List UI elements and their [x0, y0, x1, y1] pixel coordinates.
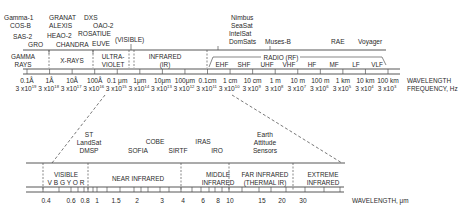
radio-sub-band: EHF: [216, 61, 229, 68]
wavelength-tick: 15: [258, 197, 266, 204]
wavelength-tick: 0.4: [41, 197, 50, 204]
mission-label: SIRTF: [169, 147, 188, 154]
wavelength-tick: 30: [299, 197, 307, 204]
mission-label: Sensors: [253, 147, 278, 154]
wavelength-tick: 100 km: [377, 77, 399, 84]
band-label-line2: INFRARED: [202, 179, 235, 186]
mission-label: DMSP: [79, 147, 99, 154]
radio-sub-band: VHF: [283, 61, 296, 68]
wavelength-tick: 10 km: [356, 77, 374, 84]
mission-label: Muses-B: [265, 38, 292, 45]
frequency-tick: 3 x1019: [16, 84, 37, 92]
bottom-wavelength-axis-label: WAVELENGTH, μm: [352, 197, 409, 205]
mission-label: ST: [85, 131, 93, 138]
wavelength-tick: 1 cm: [223, 77, 238, 84]
band-label: GAMMA: [11, 53, 36, 60]
frequency-tick: 3 x105: [333, 84, 352, 92]
bottom-mission-labels: STLandSatDMSPSOFIACOBESIRTFIRASIROEarthA…: [77, 131, 278, 154]
mission-label: Attitude: [254, 139, 277, 146]
wavelength-tick: 1.5: [111, 197, 120, 204]
frequency-tick: 3 x1010: [219, 84, 240, 92]
band-label: MIDDLE: [206, 171, 230, 178]
frequency-tick: 3 x1014: [128, 84, 149, 92]
wavelength-tick: 10Å: [66, 76, 78, 84]
mission-label: SOFIA: [128, 147, 148, 154]
mission-label: SeaSat: [231, 22, 253, 29]
frequency-tick: 3 x1016: [83, 84, 104, 92]
wavelength-tick: 1: [95, 197, 99, 204]
frequency-tick: 3 x1011: [196, 84, 217, 92]
wavelength-tick: 6: [201, 197, 205, 204]
frequency-tick: 3 x1012: [174, 84, 195, 92]
bottom-band-labels: VISIBLEV B G Y O RNEAR INFRAREDMIDDLEINF…: [47, 171, 339, 187]
wavelength-tick: 4: [181, 197, 185, 204]
mission-label: RAE: [331, 38, 345, 45]
top-mission-labels: Gamma-1COS-BSAS-2GROGRANATALEXISHEAO-2CH…: [4, 14, 383, 48]
frequency-tick: 3 x106: [310, 84, 329, 92]
frequency-tick: 3 x1015: [106, 84, 127, 92]
frequency-tick: 3 x107: [288, 84, 307, 92]
wavelength-axis-label: WAVELENGTH: [407, 77, 451, 84]
band-label: ULTRA-: [102, 53, 125, 60]
frequency-tick: 3 x1017: [61, 84, 82, 92]
mission-label: HEAO-2: [47, 32, 72, 39]
mission-label: DXS: [84, 14, 98, 21]
radio-sub-band-labels: EHFSHFUHFVHFHFMFLFVLF: [216, 61, 383, 68]
mission-label: OAO-2: [93, 22, 114, 29]
bottom-axis: [26, 187, 344, 192]
band-label-line2: (IR): [160, 61, 171, 69]
band-label: VISIBLE: [54, 171, 78, 178]
wavelength-tick: 0.6: [66, 197, 75, 204]
band-label-line2: (THERMAL IR): [244, 179, 287, 187]
band-label: INFRARED: [149, 53, 182, 60]
mission-label: LandSat: [77, 139, 102, 146]
frequency-tick: 3 x1013: [151, 84, 172, 92]
band-label: FAR INFRARED: [242, 171, 289, 178]
mission-label: Earth: [257, 131, 273, 138]
wavelength-tick: 100Å: [87, 76, 103, 84]
frequency-tick: 3 x103: [378, 84, 397, 92]
frequency-tick: 3 x109: [242, 84, 261, 92]
frequency-axis-label: FREQUENCY, Hz: [407, 85, 458, 93]
wavelength-tick: 0.8: [80, 197, 89, 204]
wavelength-tick: 3: [160, 197, 164, 204]
wavelength-tick: 8: [216, 197, 220, 204]
wavelength-tick: 100 m: [311, 77, 330, 84]
frequency-tick: 3 x1018: [38, 84, 59, 92]
wavelength-tick: 0.1Å: [20, 76, 34, 84]
band-label: NEAR INFRARED: [112, 175, 165, 182]
frequency-tick: 3 x104: [355, 84, 374, 92]
wavelength-tick: 2: [135, 197, 139, 204]
band-label: X-RAYS: [60, 57, 83, 64]
wavelength-tick: 10 cm: [244, 77, 262, 84]
wavelength-tick: 0.1cm: [199, 77, 217, 84]
mission-label: CHANDRA: [56, 41, 89, 48]
wavelength-tick: 1Å: [46, 76, 55, 84]
radio-sub-band: UHF: [260, 61, 273, 68]
radio-sub-band: HF: [308, 61, 317, 68]
radio-sub-band: VLF: [371, 61, 383, 68]
mission-label: DomSats: [229, 38, 257, 45]
band-label-line2: RAYS: [15, 61, 32, 68]
top-axis: [23, 69, 400, 74]
wavelength-tick: 10 m: [290, 77, 305, 84]
em-spectrum-diagram: Gamma-1COS-BSAS-2GROGRANATALEXISHEAO-2CH…: [0, 0, 470, 214]
top-band-labels: GAMMARAYSX-RAYSULTRA-VIOLETINFRARED(IR): [11, 53, 182, 69]
top-frequency-ticks: 3 x10193 x10183 x10173 x10163 x10153 x10…: [16, 84, 397, 92]
mission-label: GRANAT: [49, 14, 76, 21]
wavelength-tick: 1 km: [336, 77, 351, 84]
mission-label: IntelSat: [229, 30, 252, 37]
frequency-tick: 3 x108: [265, 84, 284, 92]
mission-label: COBE: [146, 138, 165, 145]
wavelength-tick: 1 m: [270, 77, 281, 84]
mission-label: IRO: [211, 147, 223, 154]
band-label: EXTREME: [308, 171, 339, 178]
wavelength-tick: 10: [226, 197, 234, 204]
mission-label: Voyager: [358, 38, 383, 46]
mission-label: COS-B: [10, 22, 31, 29]
mission-label: IRAS: [195, 138, 211, 145]
zoom-guide-right: [232, 95, 342, 163]
mission-label: GRO: [28, 41, 43, 48]
mission-label: ROSAT: [78, 30, 100, 37]
mission-label: (VISIBLE): [115, 36, 144, 44]
